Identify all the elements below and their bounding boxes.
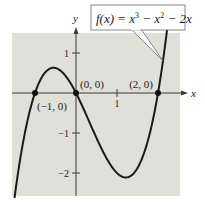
y-tick-label: −1 <box>58 128 69 139</box>
intercept-point <box>73 90 79 96</box>
y-axis-arrow-icon <box>74 27 79 34</box>
point-label: (−1, 0) <box>37 100 67 113</box>
y-tick-label: 1 <box>64 48 69 59</box>
function-graph: x y 11−1−2 (−1, 0)(0, 0)(2, 0) f(x) = x3… <box>0 0 205 202</box>
point-label: (0, 0) <box>80 78 104 91</box>
x-axis-label: x <box>190 87 196 99</box>
intercept-point <box>155 90 161 96</box>
y-tick-label: −2 <box>58 168 69 179</box>
intercept-point <box>32 90 38 96</box>
x-tick-label: 1 <box>115 98 120 109</box>
function-label: f(x) = x3 − x2 − 2x <box>96 11 192 26</box>
y-axis-label: y <box>72 12 78 24</box>
point-label: (2, 0) <box>129 78 153 91</box>
x-axis-arrow-icon <box>181 91 188 96</box>
